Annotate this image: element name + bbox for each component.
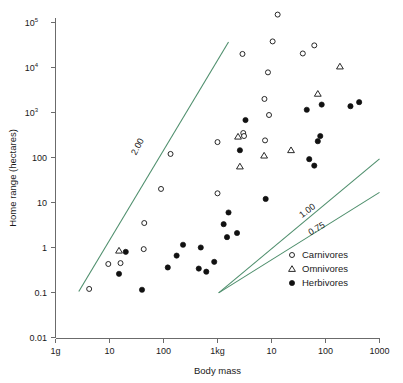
x-axis-title: Body mass bbox=[194, 365, 241, 376]
data-point-herbivore-15 bbox=[243, 117, 248, 122]
y-axis-title: Home range (hectares) bbox=[7, 129, 18, 227]
data-point-herbivore-19 bbox=[312, 163, 317, 168]
legend-marker-herbivores bbox=[289, 280, 294, 285]
data-point-carnivore-0 bbox=[87, 286, 92, 291]
data-point-carnivore-1 bbox=[106, 261, 111, 266]
data-point-herbivore-8 bbox=[204, 269, 209, 274]
data-point-herbivore-9 bbox=[212, 259, 217, 264]
data-point-carnivore-17 bbox=[275, 12, 280, 17]
data-point-carnivore-9 bbox=[240, 51, 245, 56]
x-tick-label-1g: 1g bbox=[50, 346, 60, 356]
legend-marker-carnivores bbox=[290, 253, 295, 258]
y-tick-label-100: 100 bbox=[32, 153, 47, 163]
data-point-herbivore-18 bbox=[307, 157, 312, 162]
figure-background bbox=[0, 0, 403, 383]
legend-label-carnivores: Carnivores bbox=[302, 249, 348, 260]
data-point-carnivore-19 bbox=[312, 43, 317, 48]
x-tick-label-10g: 10 bbox=[104, 346, 114, 356]
data-point-herbivore-16 bbox=[263, 196, 268, 201]
data-point-herbivore-24 bbox=[357, 100, 362, 105]
data-point-carnivore-3 bbox=[141, 247, 146, 252]
data-point-herbivore-7 bbox=[198, 245, 203, 250]
data-point-carnivore-5 bbox=[159, 186, 164, 191]
data-point-herbivore-10 bbox=[221, 222, 226, 227]
data-point-carnivore-16 bbox=[270, 39, 275, 44]
y-tick-label-1: 1 bbox=[42, 243, 47, 253]
y-tick-label-10: 10 bbox=[37, 198, 47, 208]
data-point-carnivore-12 bbox=[262, 96, 267, 101]
x-tick-label-1kg: 1kg bbox=[210, 346, 225, 356]
data-point-carnivore-8 bbox=[215, 140, 220, 145]
data-point-carnivore-2 bbox=[118, 261, 123, 266]
data-point-herbivore-21 bbox=[318, 133, 323, 138]
data-point-carnivore-15 bbox=[267, 113, 272, 118]
data-point-carnivore-4 bbox=[142, 221, 147, 226]
data-point-carnivore-14 bbox=[265, 70, 270, 75]
legend-label-herbivores: Herbivores bbox=[302, 277, 348, 288]
y-tick-label-0.01: 0.01 bbox=[29, 333, 47, 343]
data-point-herbivore-6 bbox=[196, 266, 201, 271]
data-point-carnivore-13 bbox=[263, 138, 268, 143]
data-point-carnivore-7 bbox=[215, 191, 220, 196]
x-tick-label-1000kg: 1000 bbox=[369, 346, 389, 356]
data-point-herbivore-3 bbox=[165, 265, 170, 270]
data-point-herbivore-22 bbox=[319, 102, 324, 107]
data-point-herbivore-11 bbox=[224, 235, 229, 240]
data-point-herbivore-20 bbox=[315, 139, 320, 144]
x-tick-label-10kg: 10 bbox=[266, 346, 276, 356]
data-point-herbivore-0 bbox=[116, 271, 121, 276]
data-point-herbivore-14 bbox=[237, 148, 242, 153]
data-point-carnivore-11 bbox=[242, 134, 247, 139]
legend-label-omnivores: Omnivores bbox=[302, 263, 348, 274]
y-tick-label-0.1: 0.1 bbox=[34, 288, 47, 298]
data-point-herbivore-17 bbox=[304, 107, 309, 112]
data-point-herbivore-13 bbox=[234, 230, 239, 235]
data-point-herbivore-2 bbox=[139, 287, 144, 292]
x-tick-label-100g: 100 bbox=[156, 346, 171, 356]
home-range-scatter-figure: 105 104 103 100 10 1 0.1 0.01 1g 10 100 … bbox=[0, 0, 403, 383]
data-point-carnivore-18 bbox=[300, 51, 305, 56]
chart-svg: 105 104 103 100 10 1 0.1 0.01 1g 10 100 … bbox=[0, 0, 403, 383]
x-tick-label-100kg: 100 bbox=[318, 346, 333, 356]
data-point-herbivore-12 bbox=[226, 210, 231, 215]
data-point-herbivore-4 bbox=[174, 253, 179, 258]
data-point-carnivore-6 bbox=[168, 151, 173, 156]
data-point-herbivore-23 bbox=[348, 104, 353, 109]
data-point-herbivore-5 bbox=[180, 242, 185, 247]
data-point-herbivore-1 bbox=[123, 249, 128, 254]
